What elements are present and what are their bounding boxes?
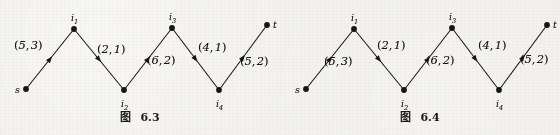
caption-cjk-label: 图 <box>400 111 411 124</box>
edge-label-i1-i2: (2, 1) <box>97 44 125 56</box>
edge-label-i2-i3: (6, 2) <box>147 55 175 67</box>
node-label-i4: i4 <box>216 99 223 111</box>
edge-label-s-i1: (5, 3) <box>324 56 352 68</box>
node-label-t: t <box>553 20 557 30</box>
node-label-i1: i1 <box>71 13 78 25</box>
arrowhead-i3-i4 <box>472 55 478 62</box>
node-i4 <box>216 87 222 93</box>
figure-6-4: 图6.4 si1i2i3i4t(5, 3)(2, 1)(6, 2)(4, 1)(… <box>280 0 560 135</box>
node-label-i2: i2 <box>401 99 408 111</box>
edge-label-i3-i4: (4, 1) <box>478 40 506 52</box>
node-i2 <box>401 87 407 93</box>
page-canvas: 图6.3 si1i2i3i4t(5, 3)(2, 1)(6, 2)(4, 1)(… <box>0 0 560 135</box>
node-label-i2: i2 <box>121 99 128 111</box>
node-i4 <box>496 87 502 93</box>
node-t <box>264 22 270 28</box>
node-i1 <box>71 26 77 32</box>
node-label-i3: i3 <box>449 12 456 24</box>
edge-label-i1-i2: (2, 1) <box>377 40 405 52</box>
node-s <box>303 86 309 92</box>
node-i2 <box>121 87 127 93</box>
node-i1 <box>351 26 357 32</box>
figure-6-3: 图6.3 si1i2i3i4t(5, 3)(2, 1)(6, 2)(4, 1)(… <box>0 0 280 135</box>
figure-caption-6-3: 图6.3 <box>0 108 280 124</box>
edge-label-i2-i3: (6, 2) <box>426 55 454 67</box>
node-s <box>23 86 29 92</box>
node-label-t: t <box>273 20 277 30</box>
node-label-s: s <box>15 85 20 95</box>
node-label-i3: i3 <box>169 12 176 24</box>
node-t <box>544 22 550 28</box>
edge-label-i4-t: (5, 2) <box>240 56 268 68</box>
node-i3 <box>449 25 455 31</box>
arrowhead-i3-i4 <box>192 55 198 62</box>
node-i3 <box>169 25 175 31</box>
node-label-i4: i4 <box>496 99 503 111</box>
edge-label-s-i1: (5, 3) <box>14 40 42 52</box>
caption-number: 6.4 <box>420 111 439 124</box>
caption-number: 6.3 <box>140 111 159 124</box>
edge-label-i4-t: (5, 2) <box>520 54 548 66</box>
node-label-i1: i1 <box>351 13 358 25</box>
node-label-s: s <box>295 85 300 95</box>
caption-cjk-label: 图 <box>120 111 131 124</box>
figure-caption-6-4: 图6.4 <box>280 108 560 124</box>
edge-label-i3-i4: (4, 1) <box>198 42 226 54</box>
